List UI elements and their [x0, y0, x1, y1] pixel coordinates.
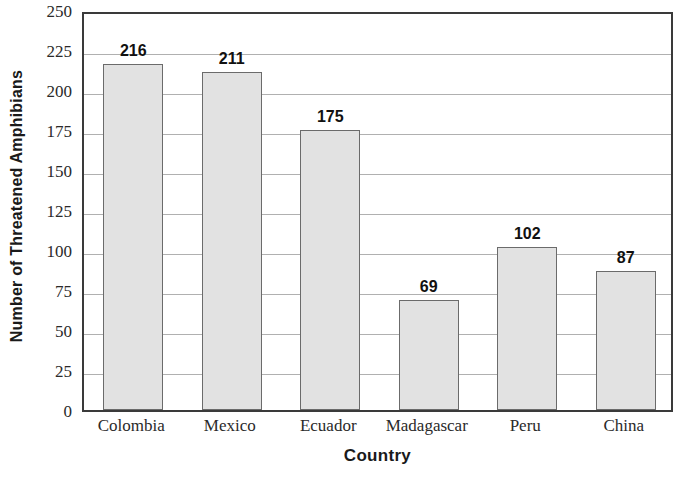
bar[interactable]	[596, 271, 656, 410]
bar-value-label: 175	[317, 108, 344, 126]
x-axis-tick-labels: ColombiaMexicoEcuadorMadagascarPeruChina	[82, 414, 673, 442]
y-tick-label: 175	[47, 122, 73, 142]
bar-value-label: 102	[514, 225, 541, 243]
bar-group[interactable]: 211	[183, 14, 282, 410]
bar-value-label: 216	[120, 42, 147, 60]
y-tick-label: 75	[55, 282, 72, 302]
y-tick-label: 150	[47, 162, 73, 182]
bar-value-label: 69	[420, 278, 438, 296]
y-axis-title: Number of Threatened Amphibians	[0, 0, 34, 412]
x-tick-label: China	[575, 416, 674, 436]
bar-group[interactable]: 102	[478, 14, 577, 410]
bar-value-label: 211	[219, 50, 245, 68]
y-tick-label: 125	[47, 202, 73, 222]
y-axis-tick-labels: 0255075100125150175200225250	[30, 0, 78, 425]
y-tick-label: 200	[47, 82, 73, 102]
x-tick-label: Colombia	[82, 416, 181, 436]
x-tick-label: Mexico	[181, 416, 280, 436]
bar-group[interactable]: 216	[84, 14, 183, 410]
y-tick-label: 250	[47, 2, 73, 22]
bar[interactable]	[202, 72, 262, 410]
x-tick-label: Peru	[476, 416, 575, 436]
bar[interactable]	[497, 247, 557, 410]
x-tick-label: Ecuador	[279, 416, 378, 436]
bar-group[interactable]: 175	[281, 14, 380, 410]
bars-layer: 2162111756910287	[84, 14, 671, 410]
bar-value-label: 87	[617, 249, 635, 267]
y-tick-label: 225	[47, 42, 73, 62]
x-tick-label: Madagascar	[378, 416, 477, 436]
bar-group[interactable]: 69	[380, 14, 479, 410]
bar[interactable]	[103, 64, 163, 410]
bar[interactable]	[399, 300, 459, 410]
y-axis-title-text: Number of Threatened Amphibians	[8, 70, 26, 342]
y-tick-label: 25	[55, 362, 72, 382]
y-tick-label: 0	[64, 402, 73, 422]
bar-group[interactable]: 87	[577, 14, 676, 410]
y-tick-label: 100	[47, 242, 73, 262]
y-tick-label: 50	[55, 322, 72, 342]
bar-chart: Number of Threatened Amphibians 02550751…	[0, 0, 684, 485]
x-axis-title: Country	[82, 446, 673, 466]
bar[interactable]	[300, 130, 360, 410]
plot-area: 2162111756910287	[82, 12, 673, 412]
